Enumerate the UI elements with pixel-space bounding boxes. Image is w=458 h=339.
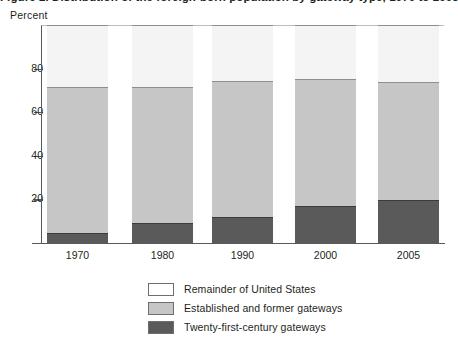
bar-segment-twentyfirst[interactable] xyxy=(47,233,108,244)
bar-2005[interactable] xyxy=(378,25,439,243)
bar-segment-twentyfirst[interactable] xyxy=(212,217,273,244)
y-tick-label: 40 xyxy=(13,149,43,161)
bar-2000[interactable] xyxy=(295,25,356,243)
legend-swatch-twentyfirst xyxy=(148,321,174,334)
x-tick-label-1970: 1970 xyxy=(43,249,113,261)
bar-segment-twentyfirst[interactable] xyxy=(132,223,193,244)
legend-item[interactable]: Remainder of United States xyxy=(148,280,408,298)
chart-figure: Figure 2. Distribution of the foreign-bo… xyxy=(0,0,458,339)
y-axis-label: Percent xyxy=(10,9,48,21)
bar-1990[interactable] xyxy=(212,25,273,243)
chart-legend: Remainder of United StatesEstablished an… xyxy=(148,280,408,337)
bar-segment-established[interactable] xyxy=(378,82,439,201)
legend-swatch-remainder xyxy=(148,283,174,296)
bar-segment-remainder[interactable] xyxy=(212,26,273,81)
y-tick-label: 60 xyxy=(13,105,43,117)
bar-segment-established[interactable] xyxy=(212,81,273,217)
legend-item[interactable]: Established and former gateways xyxy=(148,299,408,317)
bar-segment-remainder[interactable] xyxy=(47,26,108,87)
x-tick-label-1980: 1980 xyxy=(128,249,198,261)
y-tick-label: 80 xyxy=(13,62,43,74)
x-tick-label-2005: 2005 xyxy=(374,249,444,261)
bar-segment-established[interactable] xyxy=(295,79,356,205)
bar-1970[interactable] xyxy=(47,25,108,243)
y-tick-label: 20 xyxy=(13,192,43,204)
bar-segment-remainder[interactable] xyxy=(378,26,439,82)
bar-segment-established[interactable] xyxy=(47,87,108,233)
bar-segment-twentyfirst[interactable] xyxy=(295,206,356,244)
x-tick-label-2000: 2000 xyxy=(291,249,361,261)
bar-segment-remainder[interactable] xyxy=(132,26,193,87)
legend-label: Twenty-first-century gateways xyxy=(184,321,326,333)
bar-segment-established[interactable] xyxy=(132,87,193,223)
x-tick-label-1990: 1990 xyxy=(208,249,278,261)
legend-item[interactable]: Twenty-first-century gateways xyxy=(148,318,408,336)
bar-segment-twentyfirst[interactable] xyxy=(378,200,439,244)
bar-1980[interactable] xyxy=(132,25,193,243)
legend-label: Established and former gateways xyxy=(184,302,342,314)
legend-swatch-established xyxy=(148,302,174,315)
bar-segment-remainder[interactable] xyxy=(295,26,356,79)
figure-title: Figure 2. Distribution of the foreign-bo… xyxy=(0,0,458,5)
legend-label: Remainder of United States xyxy=(184,283,316,295)
